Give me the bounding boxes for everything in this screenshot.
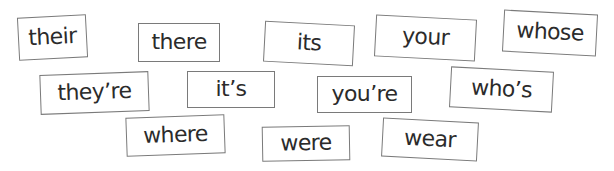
word-card-label: they’re [57, 80, 132, 107]
word-card-wear[interactable]: wear [381, 118, 479, 162]
word-card-label: whose [516, 19, 585, 46]
word-card-whose[interactable]: whose [502, 10, 598, 57]
word-card-youre[interactable]: you’re [317, 76, 412, 113]
word-card-whos[interactable]: who’s [449, 66, 554, 112]
word-card-label: where [143, 122, 208, 148]
word-card-where[interactable]: where [125, 114, 225, 156]
word-card-label: its [296, 31, 322, 56]
word-card-were[interactable]: were [262, 125, 351, 162]
word-card-label: there [151, 31, 206, 55]
word-card-your[interactable]: your [374, 14, 477, 61]
word-card-label: who’s [470, 76, 532, 103]
word-card-label: were [280, 131, 332, 156]
word-card-its[interactable]: its [263, 21, 355, 67]
word-card-label: it’s [216, 78, 247, 102]
word-card-there[interactable]: there [138, 23, 220, 62]
word-card-label: your [401, 25, 449, 51]
word-card-label: their [28, 24, 77, 50]
word-card-their[interactable]: their [17, 14, 88, 61]
word-card-theyre[interactable]: they’re [39, 71, 149, 115]
word-card-label: wear [404, 126, 457, 153]
word-card-label: you’re [332, 83, 398, 107]
word-card-its-contraction[interactable]: it’s [187, 71, 275, 108]
